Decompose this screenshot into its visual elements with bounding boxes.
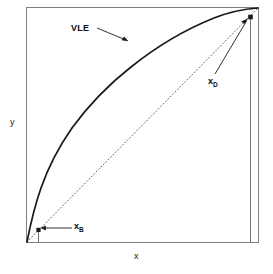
xd-annotation-label: xD bbox=[208, 77, 218, 88]
vle-diagram-figure: y x VLE xD xB bbox=[0, 0, 273, 274]
vle-annotation-label: VLE bbox=[71, 24, 89, 33]
xb-subscript: B bbox=[79, 226, 84, 233]
xd-subscript: D bbox=[213, 81, 218, 88]
x-axis-label: x bbox=[134, 252, 139, 261]
y-axis-label: y bbox=[10, 118, 15, 127]
xb-marker bbox=[36, 228, 40, 232]
xd-marker bbox=[248, 15, 253, 20]
xb-annotation-label: xB bbox=[74, 222, 84, 233]
plot-canvas bbox=[0, 0, 273, 274]
